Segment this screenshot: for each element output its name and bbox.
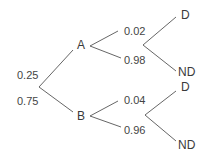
branch-b-upper — [90, 101, 118, 116]
branch-a-upper — [90, 31, 118, 46]
branch-root-to-a — [39, 50, 73, 87]
root-branches — [39, 50, 73, 112]
branch-b-to-nd — [145, 115, 176, 141]
outcome-b-d: D — [181, 81, 190, 93]
probability-b-nd: 0.96 — [124, 124, 145, 136]
branch-root-to-b — [39, 87, 73, 112]
probability-b-d: 0.04 — [124, 94, 145, 106]
node-a: A — [77, 39, 85, 51]
branch-b-to-d — [145, 91, 176, 115]
probability-root-a: 0.25 — [17, 69, 38, 81]
node-b: B — [77, 110, 85, 122]
branch-a-to-d — [143, 17, 176, 45]
probability-root-b: 0.75 — [17, 95, 38, 107]
branch-a-lower — [90, 46, 121, 58]
outcome-a-nd: ND — [178, 66, 195, 78]
branch-b-lower — [90, 116, 121, 127]
probability-a-d: 0.02 — [124, 25, 145, 37]
outcome-b-nd: ND — [178, 139, 195, 151]
outcome-a-d: D — [181, 9, 190, 21]
branch-a-to-nd — [143, 45, 176, 71]
probability-a-nd: 0.98 — [124, 54, 145, 66]
